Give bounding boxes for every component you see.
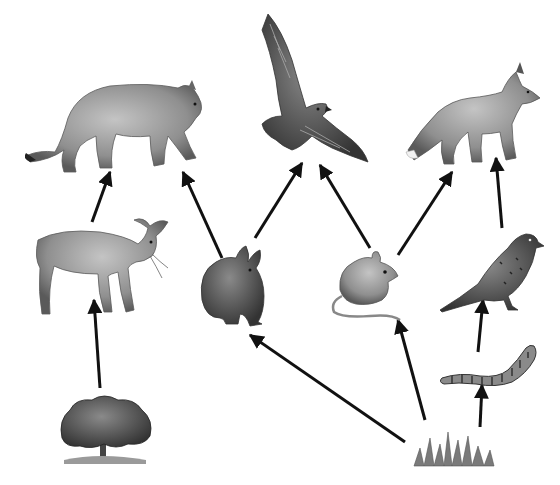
cougar-illustration	[25, 80, 202, 172]
food-web-svg	[0, 0, 560, 485]
arrow-grass-to-caterpillar	[480, 385, 482, 427]
arrows-layer	[92, 158, 502, 442]
arrow-grass-to-mouse	[398, 320, 425, 420]
arrow-grass-to-rabbit	[250, 335, 405, 442]
rabbit-illustration	[201, 246, 264, 326]
arrow-tree-to-deer	[94, 300, 100, 388]
arrow-sparrow-to-fox	[496, 158, 502, 228]
arrow-deer-to-cougar	[92, 172, 110, 222]
arrow-caterpillar-to-sparrow	[478, 300, 483, 352]
hawk-illustration	[262, 14, 368, 162]
fox-illustration	[406, 62, 540, 164]
mouse-illustration	[333, 252, 400, 320]
deer-illustration	[36, 219, 168, 314]
grass-illustration	[414, 432, 494, 466]
arrow-rabbit-to-cougar	[183, 172, 222, 258]
tree-illustration	[61, 396, 151, 464]
sparrow-illustration	[440, 234, 544, 312]
caterpillar-illustration	[440, 345, 536, 385]
arrow-rabbit-to-hawk	[255, 163, 302, 238]
arrow-mouse-to-hawk	[320, 165, 370, 248]
food-web-diagram: food-web	[0, 0, 560, 485]
arrow-mouse-to-fox	[398, 172, 452, 255]
